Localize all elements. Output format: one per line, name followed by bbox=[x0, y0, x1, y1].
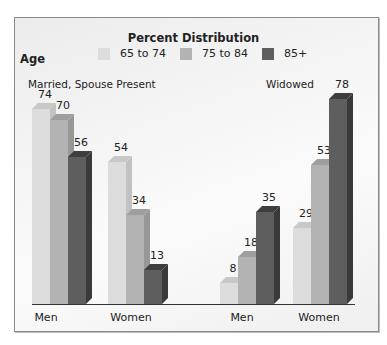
bar-value-label: 54 bbox=[109, 141, 133, 154]
bar-value-label: 56 bbox=[69, 136, 93, 149]
bar-front-face bbox=[256, 212, 274, 304]
bar-front-face bbox=[32, 109, 50, 304]
x-label-widowed-men: Men bbox=[212, 311, 272, 324]
legend-label-65-74: 65 to 74 bbox=[120, 47, 166, 60]
bar-widowed-men-85plus bbox=[256, 206, 280, 304]
bar-married-men-85plus bbox=[68, 151, 92, 304]
bar-widowed-women-85plus bbox=[329, 93, 353, 304]
bar-front-face bbox=[238, 257, 256, 304]
bar-side-face bbox=[86, 151, 92, 304]
bar-front-face bbox=[126, 215, 144, 304]
bar-married-women-85plus bbox=[144, 264, 168, 304]
legend-label-75-84: 75 to 84 bbox=[202, 47, 248, 60]
chart-title: Percent Distribution bbox=[0, 31, 387, 45]
x-label-married-women: Women bbox=[101, 311, 161, 324]
x-label-married-men: Men bbox=[16, 311, 76, 324]
bar-front-face bbox=[144, 270, 162, 304]
bar-side-face bbox=[347, 93, 353, 304]
bar-front-face bbox=[220, 283, 238, 304]
legend: 65 to 74 75 to 84 85+ bbox=[98, 47, 321, 60]
group-title-widowed: Widowed bbox=[266, 78, 314, 90]
bar-value-label: 35 bbox=[257, 191, 281, 204]
bar-front-face bbox=[108, 162, 126, 304]
bar-value-label: 78 bbox=[330, 78, 354, 91]
bar-value-label: 34 bbox=[127, 194, 151, 207]
bar-side-face bbox=[274, 206, 280, 304]
bar-front-face bbox=[293, 228, 311, 304]
bar-front-face bbox=[50, 120, 68, 304]
bar-value-label: 13 bbox=[145, 249, 169, 262]
legend-title-age: Age bbox=[20, 52, 45, 66]
legend-label-85-plus: 85+ bbox=[284, 47, 307, 60]
bar-side-face bbox=[162, 264, 168, 304]
legend-swatch-85-plus bbox=[262, 48, 274, 60]
x-axis-baseline bbox=[32, 304, 355, 305]
legend-swatch-75-84 bbox=[180, 48, 192, 60]
x-label-widowed-women: Women bbox=[289, 311, 349, 324]
bar-front-face bbox=[329, 99, 347, 304]
bar-value-label: 70 bbox=[51, 99, 75, 112]
bar-front-face bbox=[311, 165, 329, 304]
legend-swatch-65-74 bbox=[98, 48, 110, 60]
bar-front-face bbox=[68, 157, 86, 304]
